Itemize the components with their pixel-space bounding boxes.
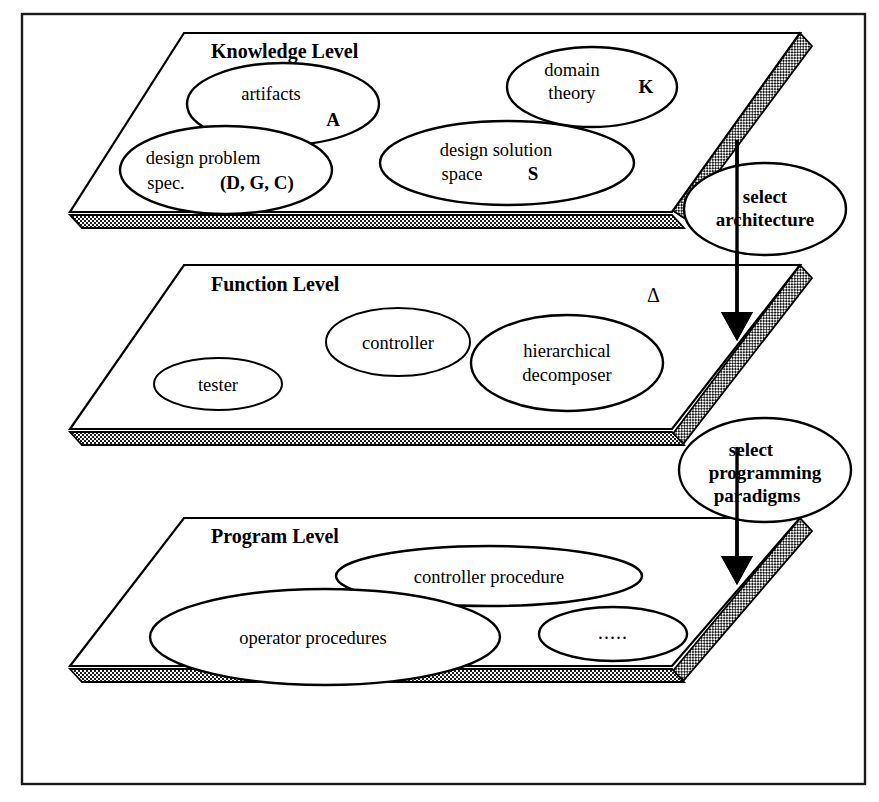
node-domain-theory-label-1: domain xyxy=(544,60,600,80)
transition-select-programming-paradigms-label-2: programming xyxy=(709,462,822,483)
plane-front-slab-function xyxy=(70,432,684,445)
diagram-canvas: Knowledge Level artifacts A domain theor… xyxy=(0,0,879,802)
node-hierarchical-decomposer[interactable]: hierarchical decomposer xyxy=(471,315,663,411)
node-tester[interactable]: tester xyxy=(154,358,282,410)
node-design-problem-spec[interactable]: design problem spec. (D, G, C) xyxy=(120,126,332,214)
node-design-solution-space-label-1: design solution xyxy=(440,140,553,160)
node-design-solution-space-shape[interactable] xyxy=(380,121,634,205)
node-controller[interactable]: controller xyxy=(326,308,470,376)
node-ellipsis-label: ..... xyxy=(598,621,628,643)
level-title-program: Program Level xyxy=(211,525,339,548)
node-hierarchical-decomposer-label-1: hierarchical xyxy=(523,341,610,361)
node-design-solution-space[interactable]: design solution space S xyxy=(380,121,634,205)
node-design-problem-spec-label-2: spec. xyxy=(147,173,185,193)
node-design-solution-space-label-2: space xyxy=(441,164,482,184)
node-tester-label: tester xyxy=(198,375,238,395)
plane-front-slab-knowledge xyxy=(70,215,684,228)
node-domain-theory-symbol: K xyxy=(639,76,654,97)
node-artifacts-label: artifacts xyxy=(241,84,301,104)
node-design-problem-spec-symbol: (D, G, C) xyxy=(220,172,294,194)
function-level-delta-annotation: Δ xyxy=(647,284,660,306)
node-controller-label: controller xyxy=(362,333,434,353)
transition-select-architecture-label-2: architecture xyxy=(716,209,814,230)
node-operator-procedures[interactable]: operator procedures xyxy=(150,589,500,685)
node-design-problem-spec-shape[interactable] xyxy=(120,126,332,214)
transition-select-programming-paradigms-label-3: paradigms xyxy=(714,485,801,506)
transition-select-architecture-label-1: select xyxy=(743,186,788,207)
node-artifacts-symbol: A xyxy=(326,109,340,130)
node-controller-procedure-label: controller procedure xyxy=(414,567,565,587)
node-design-problem-spec-label-1: design problem xyxy=(146,148,261,168)
level-title-knowledge: Knowledge Level xyxy=(211,40,359,63)
node-hierarchical-decomposer-label-2: decomposer xyxy=(522,365,611,385)
node-domain-theory[interactable]: domain theory K xyxy=(507,47,677,127)
node-operator-procedures-label: operator procedures xyxy=(239,628,386,648)
level-title-function: Function Level xyxy=(211,273,340,295)
node-design-solution-space-symbol: S xyxy=(528,163,539,184)
transition-select-architecture[interactable]: select architecture xyxy=(684,163,846,255)
node-domain-theory-label-2: theory xyxy=(548,83,596,103)
node-hierarchical-decomposer-shape[interactable] xyxy=(471,315,663,411)
three-level-design-diagram: Knowledge Level artifacts A domain theor… xyxy=(0,0,879,802)
transition-select-programming-paradigms[interactable]: select programming paradigms xyxy=(679,418,851,522)
node-ellipsis[interactable]: ..... xyxy=(539,607,687,661)
